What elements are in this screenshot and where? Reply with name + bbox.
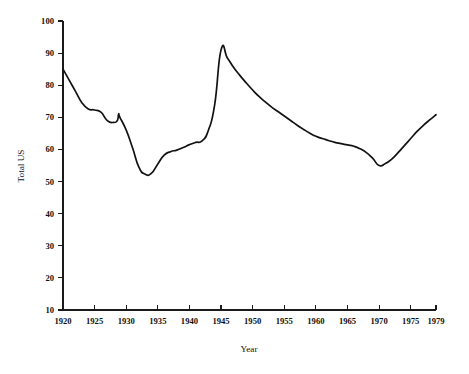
y-tick-label-10: 10: [45, 305, 54, 315]
data-series-total-us: [63, 45, 436, 175]
x-tick-label-1955: 1955: [276, 316, 293, 326]
y-tick-label-60: 60: [45, 144, 54, 154]
y-tick-label-30: 30: [45, 241, 54, 251]
y-tick-label-90: 90: [45, 48, 54, 58]
x-tick-label-1960: 1960: [307, 316, 324, 326]
x-tick-label-1925: 1925: [86, 316, 103, 326]
x-tick-label-1945: 1945: [212, 316, 229, 326]
y-tick-label-20: 20: [45, 273, 54, 283]
x-axis-title: Year: [241, 344, 258, 354]
x-axis-ticks: [63, 305, 436, 310]
x-tick-label-1950: 1950: [244, 316, 261, 326]
x-tick-label-1920: 1920: [54, 316, 71, 326]
x-tick-label-1979: 1979: [427, 316, 444, 326]
x-tick-label-1970: 1970: [371, 316, 388, 326]
x-tick-label-1940: 1940: [181, 316, 198, 326]
y-tick-label-80: 80: [45, 80, 54, 90]
y-tick-label-70: 70: [45, 112, 54, 122]
chart-container: 102030405060708090100 192019251930193519…: [0, 0, 469, 374]
y-axis-title: Total US: [16, 150, 26, 183]
y-tick-label-40: 40: [45, 209, 54, 219]
y-tick-label-50: 50: [45, 177, 54, 187]
y-axis-ticks: [58, 21, 63, 310]
x-tick-label-1930: 1930: [118, 316, 135, 326]
y-tick-label-100: 100: [41, 16, 54, 26]
x-tick-label-1965: 1965: [339, 316, 356, 326]
x-tick-label-1935: 1935: [149, 316, 166, 326]
x-tick-label-1975: 1975: [402, 316, 419, 326]
y-axis-tick-labels: 102030405060708090100: [41, 16, 54, 315]
x-axis-tick-labels: 1920192519301935194019451950195519601965…: [54, 316, 444, 326]
line-chart-plot: 102030405060708090100 192019251930193519…: [0, 0, 469, 374]
